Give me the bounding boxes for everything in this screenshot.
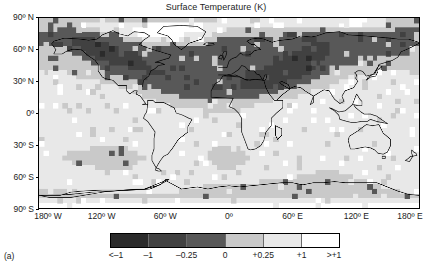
y-tick-label: 60º S: [0, 173, 34, 182]
x-tick-label: 120º W: [88, 212, 116, 221]
colorbar-tick-label: >+1: [327, 251, 342, 260]
page-title: Surface Temperature (K): [0, 2, 432, 12]
latitude-axis: 90º N60º N30º N0º30º S60º S90º S: [0, 17, 34, 209]
surface-temperature-figure: Surface Temperature (K) 90º N60º N30º N0…: [0, 0, 432, 278]
colorbar-tick-label: 0: [223, 251, 228, 260]
world-map-plot: [38, 17, 420, 209]
y-tick-label: 90º S: [0, 205, 34, 214]
y-tick-label: 30º S: [0, 141, 34, 150]
temperature-anomaly-heatmap: [39, 18, 419, 208]
x-tick-label: 120º E: [344, 212, 369, 221]
colorbar-tick-label: –0.25: [176, 251, 197, 260]
x-tick-label: 60º W: [154, 212, 177, 221]
y-tick-label: 60º N: [0, 45, 34, 54]
x-tick-label: 0º: [225, 212, 233, 221]
panel-label: (a): [4, 252, 14, 261]
y-tick-label: 30º N: [0, 77, 34, 86]
x-tick-label: 180º E: [397, 212, 422, 221]
colorbar-tick-label: +0.25: [253, 251, 275, 260]
colorbar-tick-label: <–1: [109, 251, 123, 260]
colorbar-legend: [110, 233, 340, 249]
colorbar-segment: [301, 234, 339, 247]
x-tick-label: 180º W: [34, 212, 62, 221]
longitude-axis: 180º W120º W60º W0º60º E120º E180º E: [38, 210, 420, 226]
colorbar-gradient: [110, 233, 340, 248]
colorbar-tick-label: +1: [297, 251, 307, 260]
colorbar-segment: [111, 234, 148, 247]
colorbar-segment: [225, 234, 263, 247]
colorbar-tick-label: –1: [144, 251, 153, 260]
colorbar-segment: [148, 234, 186, 247]
y-tick-label: 0º: [0, 109, 34, 118]
colorbar-segment: [186, 234, 224, 247]
colorbar-tick-labels: <–1–1–0.250+0.25+1>+1: [110, 251, 340, 263]
y-tick-label: 90º N: [0, 13, 34, 22]
colorbar-segment: [263, 234, 301, 247]
x-tick-label: 60º E: [282, 212, 303, 221]
